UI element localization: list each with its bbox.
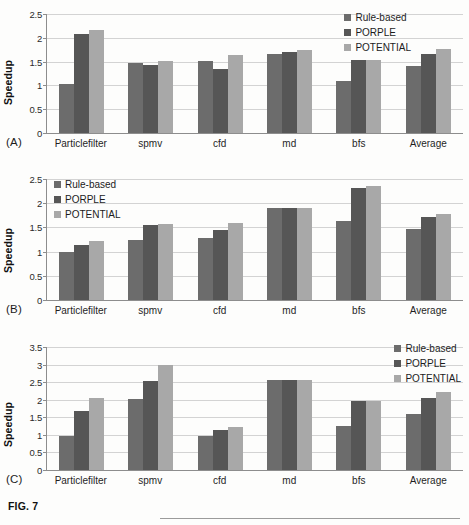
legend-item: POTENTIAL — [344, 42, 411, 53]
legend-swatch-icon — [394, 375, 401, 382]
bar — [128, 240, 143, 300]
bar-group — [394, 179, 463, 300]
legend-swatch-icon — [54, 196, 61, 203]
figure-7: Speedup (A) 00.511.522.5 Particlefilters… — [0, 0, 469, 525]
x-axis-labels-a: ParticlefilterspmvcfdmdbfsAverage — [46, 138, 463, 149]
bar — [128, 63, 143, 133]
bar — [198, 436, 213, 470]
bar — [282, 52, 297, 133]
bar — [267, 54, 282, 133]
bar-group — [116, 347, 185, 470]
caption-divider — [160, 518, 460, 519]
legend-label: PORPLE — [355, 27, 396, 38]
y-axis-tick-label: 0 — [37, 128, 42, 139]
bar — [143, 225, 158, 301]
bar — [282, 208, 297, 300]
legend-b: Rule-basedPORPLEPOTENTIAL — [54, 179, 121, 220]
x-axis-label: cfd — [185, 475, 255, 486]
x-axis-label: Particlefilter — [46, 138, 116, 149]
bar — [297, 50, 312, 133]
y-axis-tick-label: 3.5 — [29, 342, 42, 353]
legend-label: PORPLE — [65, 194, 106, 205]
chart-panel-b: Speedup (B) 00.511.522.5 Particlefilters… — [0, 165, 469, 335]
y-axis-tick-label: 2.5 — [29, 377, 42, 388]
x-axis-labels-c: ParticlefilterspmvcfdmdbfsAverage — [46, 475, 463, 486]
bar-group — [116, 14, 185, 133]
bar — [158, 61, 173, 133]
y-axis-tick-label: 1 — [37, 80, 42, 91]
y-axis-title-b: Speedup — [2, 228, 14, 273]
bar — [406, 414, 421, 470]
x-axis-label: spmv — [116, 305, 186, 316]
bar — [421, 217, 436, 300]
legend-label: Rule-based — [405, 343, 456, 354]
x-axis-label: bfs — [324, 138, 394, 149]
legend-item: PORPLE — [394, 358, 461, 369]
bar — [59, 436, 74, 470]
legend-swatch-icon — [344, 44, 351, 51]
legend-label: Rule-based — [355, 12, 406, 23]
bar-group — [255, 179, 324, 300]
legend-item: Rule-based — [344, 12, 411, 23]
legend-swatch-icon — [394, 345, 401, 352]
y-axis-tick-label: 0.5 — [29, 104, 42, 115]
bar — [351, 188, 366, 300]
legend-item: Rule-based — [54, 179, 121, 190]
bar — [406, 229, 421, 300]
legend-swatch-icon — [54, 181, 61, 188]
x-axis-label: Average — [394, 305, 464, 316]
bar — [74, 245, 89, 300]
bar — [336, 221, 351, 300]
y-axis-tick-label: 1 — [37, 429, 42, 440]
bar-group — [324, 347, 393, 470]
bar — [267, 208, 282, 300]
legend-swatch-icon — [394, 360, 401, 367]
y-axis-tick-label: 2.5 — [29, 174, 42, 185]
legend-item: Rule-based — [394, 343, 461, 354]
x-axis-label: Particlefilter — [46, 305, 116, 316]
panel-tag-c: (C) — [6, 473, 23, 485]
legend-item: PORPLE — [54, 194, 121, 205]
bar-group — [116, 179, 185, 300]
bar — [59, 84, 74, 133]
bar — [213, 230, 228, 300]
y-axis-tick-mark — [43, 470, 47, 471]
bar-group — [186, 14, 255, 133]
bar — [143, 381, 158, 470]
bar-group — [47, 14, 116, 133]
y-axis-title-c: Speedup — [2, 402, 14, 447]
chart-panel-a: Speedup (A) 00.511.522.5 Particlefilters… — [0, 0, 469, 165]
legend-label: PORPLE — [405, 358, 446, 369]
legend-label: POTENTIAL — [65, 209, 121, 220]
bar — [366, 186, 381, 300]
legend-c: Rule-basedPORPLEPOTENTIAL — [394, 343, 461, 384]
bar — [143, 65, 158, 133]
bar-group — [186, 179, 255, 300]
y-axis-tick-label: 2 — [37, 394, 42, 405]
bar-group — [47, 347, 116, 470]
bar — [228, 427, 243, 470]
bar — [267, 380, 282, 470]
y-axis-tick-label: 0 — [37, 465, 42, 476]
y-axis-tick-label: 0.5 — [29, 447, 42, 458]
x-axis-label: spmv — [116, 475, 186, 486]
x-axis-label: cfd — [185, 138, 255, 149]
bar — [198, 61, 213, 133]
legend-a: Rule-basedPORPLEPOTENTIAL — [344, 12, 411, 53]
x-axis-label: md — [255, 138, 325, 149]
bar — [421, 54, 436, 133]
legend-label: Rule-based — [65, 179, 116, 190]
y-axis-tick-label: 1.5 — [29, 222, 42, 233]
bar — [351, 60, 366, 133]
bar — [366, 60, 381, 133]
x-axis-label: cfd — [185, 305, 255, 316]
bar — [158, 224, 173, 300]
x-axis-label: md — [255, 475, 325, 486]
panel-tag-b: (B) — [6, 303, 22, 315]
legend-swatch-icon — [344, 14, 351, 21]
y-axis-tick-label: 1.5 — [29, 56, 42, 67]
bar-group — [255, 14, 324, 133]
x-axis-label: bfs — [324, 475, 394, 486]
x-axis-labels-b: ParticlefilterspmvcfdmdbfsAverage — [46, 305, 463, 316]
bar — [213, 430, 228, 470]
